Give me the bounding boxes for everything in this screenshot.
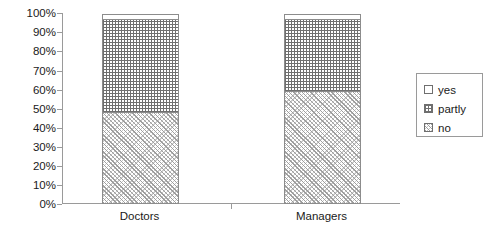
bar-stack-managers bbox=[284, 14, 361, 203]
legend-item-partly: partly bbox=[424, 100, 482, 117]
partly-swatch-icon bbox=[424, 104, 433, 113]
y-tick-label: 50% bbox=[0, 103, 56, 115]
legend: yes partly no bbox=[416, 73, 483, 137]
x-tick-label-managers: Managers bbox=[283, 209, 360, 223]
bar-stack-doctors bbox=[102, 14, 179, 203]
legend-item-yes: yes bbox=[424, 81, 482, 98]
y-tick-label: 80% bbox=[0, 45, 56, 57]
y-tick-label: 0% bbox=[0, 198, 56, 210]
y-tick-label: 60% bbox=[0, 84, 56, 96]
y-tick-mark bbox=[57, 204, 62, 205]
y-tick-label: 100% bbox=[0, 7, 56, 19]
x-axis: Doctors Managers bbox=[62, 209, 400, 229]
y-tick-label: 90% bbox=[0, 26, 56, 38]
yes-swatch-icon bbox=[424, 85, 433, 94]
y-tick-label: 70% bbox=[0, 65, 56, 77]
y-tick-label: 30% bbox=[0, 141, 56, 153]
y-axis: 100% 90% 80% 70% 60% 50% 40% 30% 20% 10%… bbox=[0, 0, 56, 232]
y-tick-label: 20% bbox=[0, 160, 56, 172]
bar-segment-managers-no bbox=[284, 91, 361, 204]
no-swatch-icon bbox=[424, 123, 433, 132]
legend-label-yes: yes bbox=[438, 84, 456, 96]
bar-segment-managers-partly bbox=[284, 19, 361, 92]
x-tick-label-doctors: Doctors bbox=[101, 209, 178, 223]
legend-label-no: no bbox=[438, 122, 451, 134]
y-tick-label: 40% bbox=[0, 122, 56, 134]
legend-item-no: no bbox=[424, 119, 482, 136]
stacked-bar-chart: 100% 90% 80% 70% 60% 50% 40% 30% 20% 10%… bbox=[0, 0, 494, 232]
plot-area bbox=[62, 13, 400, 204]
legend-label-partly: partly bbox=[438, 103, 466, 115]
y-tick-label: 10% bbox=[0, 179, 56, 191]
bar-segment-doctors-partly bbox=[102, 19, 179, 113]
bar-segment-doctors-no bbox=[102, 112, 179, 204]
